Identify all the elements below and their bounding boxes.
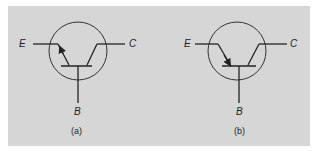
transistor-b (195, 22, 287, 103)
collector-label-b: C (290, 38, 297, 49)
base-label-a: B (74, 106, 81, 117)
emitter-label-a: E (19, 38, 26, 49)
caption-a: (a) (71, 126, 82, 136)
transistor-diagram (0, 0, 314, 151)
emitter-label-b: E (184, 38, 191, 49)
transistor-a (33, 22, 125, 103)
collector-label-a: C (129, 38, 136, 49)
caption-b: (b) (234, 126, 245, 136)
base-label-b: B (236, 106, 243, 117)
